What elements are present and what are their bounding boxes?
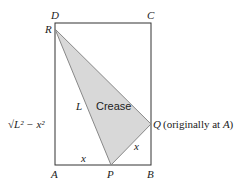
label-A: A bbox=[51, 169, 58, 180]
label-B: B bbox=[147, 169, 154, 180]
label-q-note-A: A bbox=[223, 118, 230, 130]
label-q-note: (originally at A) bbox=[163, 119, 233, 130]
label-x-diagonal: x bbox=[134, 141, 139, 152]
label-crease: Crease bbox=[96, 101, 131, 112]
label-sqrt-expression: √L² − x² bbox=[8, 119, 45, 130]
label-R: R bbox=[45, 24, 52, 35]
label-x-bottom: x bbox=[81, 153, 86, 164]
label-Q: Q bbox=[153, 119, 161, 130]
label-P: P bbox=[107, 169, 114, 180]
diagram-canvas bbox=[0, 0, 243, 190]
label-C: C bbox=[147, 10, 154, 21]
label-L: L bbox=[76, 101, 82, 112]
label-D: D bbox=[51, 10, 59, 21]
